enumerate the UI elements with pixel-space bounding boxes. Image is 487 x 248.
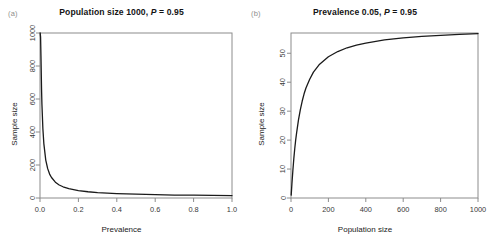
svg-text:200: 200 [322,205,334,214]
svg-text:0: 0 [279,196,288,200]
svg-text:0: 0 [289,205,293,214]
x-axis-title-b: Population size [243,225,487,234]
plot-area-b: 0200400600800100001020304050 [243,0,487,248]
svg-text:1000: 1000 [28,25,37,41]
y-axis-title-a: Sample size [10,84,19,164]
y-axis-title-b: Sample size [257,84,266,164]
svg-text:10: 10 [279,165,288,173]
svg-text:400: 400 [28,126,37,138]
svg-text:50: 50 [279,49,288,57]
figure-panel-group: (a) Population size 1000, P = 0.95 0.00.… [0,0,487,248]
x-axis-title-a: Prevalence [0,225,243,234]
svg-text:1.0: 1.0 [227,205,237,214]
svg-text:0.0: 0.0 [35,205,45,214]
svg-text:20: 20 [279,136,288,144]
svg-text:30: 30 [279,107,288,115]
svg-text:600: 600 [397,205,409,214]
svg-text:0.6: 0.6 [150,205,160,214]
svg-text:0.2: 0.2 [73,205,83,214]
svg-text:0.8: 0.8 [188,205,198,214]
svg-text:800: 800 [28,60,37,72]
svg-text:200: 200 [28,159,37,171]
chart-panel-b: (b) Prevalence 0.05, P = 0.95 0200400600… [243,0,487,248]
svg-text:800: 800 [434,205,446,214]
svg-text:0.4: 0.4 [112,205,122,214]
plot-area-a: 0.00.20.40.60.81.002004006008001000 [0,0,243,248]
svg-text:40: 40 [279,78,288,86]
svg-text:1000: 1000 [470,205,486,214]
svg-text:400: 400 [360,205,372,214]
svg-text:0: 0 [28,196,37,200]
svg-text:600: 600 [28,93,37,105]
chart-panel-a: (a) Population size 1000, P = 0.95 0.00.… [0,0,243,248]
